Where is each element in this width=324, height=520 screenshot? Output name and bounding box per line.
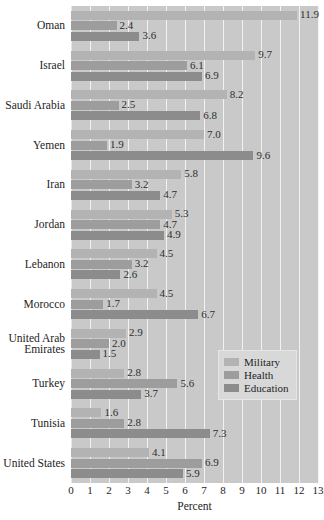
bar-value-label: 2.8 <box>127 367 141 378</box>
legend-swatch <box>224 371 239 379</box>
bar <box>71 379 177 388</box>
bar-value-label: 7.0 <box>207 129 221 140</box>
x-tick-label: 8 <box>220 484 226 496</box>
bar <box>71 300 103 309</box>
bar <box>71 180 132 189</box>
category-label: Tunisia <box>31 418 65 429</box>
bar-value-label: 3.7 <box>144 388 158 399</box>
bar-row: 9.6 <box>71 151 318 160</box>
x-tick-label: 1 <box>87 484 93 496</box>
bar-row: 1.6 <box>71 408 318 417</box>
category-label: Saudi Arabia <box>5 100 65 111</box>
bar-row: 5.8 <box>71 170 318 179</box>
bar-row: 7.3 <box>71 429 318 438</box>
category-axis-labels: OmanIsraelSaudi ArabiaYemenIranJordanLeb… <box>0 6 68 483</box>
category-label: Turkey <box>32 378 65 389</box>
bar-value-label: 2.9 <box>129 328 143 339</box>
bar <box>71 170 181 179</box>
bar <box>71 90 227 99</box>
bar-value-label: 5.9 <box>186 468 200 479</box>
bar <box>71 101 119 110</box>
bar <box>71 429 210 438</box>
bar-row: 4.7 <box>71 220 318 229</box>
bar-row: 3.6 <box>71 32 318 41</box>
bar <box>71 11 297 20</box>
category-label: Israel <box>39 60 65 71</box>
x-tick-label: 2 <box>106 484 112 496</box>
legend-label: Education <box>244 382 289 394</box>
bar-group: 5.34.74.9 <box>71 205 318 245</box>
bar-row: 2.8 <box>71 419 318 428</box>
x-axis-title: Percent <box>71 500 318 512</box>
bar-row: 11.9 <box>71 11 318 20</box>
bar-row: 7.0 <box>71 130 318 139</box>
legend: MilitaryHealthEducation <box>218 350 297 400</box>
x-axis-ticks: 012345678910111213 <box>71 483 318 501</box>
bar-value-label: 6.7 <box>201 309 215 320</box>
bar <box>71 151 253 160</box>
bar <box>71 141 107 150</box>
bar <box>71 72 202 81</box>
bar <box>71 419 124 428</box>
bar-value-label: 9.7 <box>258 49 272 60</box>
bar-row: 3.2 <box>71 180 318 189</box>
bar-row: 1.9 <box>71 141 318 150</box>
category-label: United States <box>3 458 65 469</box>
bar-row: 2.4 <box>71 21 318 30</box>
bar <box>71 369 124 378</box>
x-tick-label: 0 <box>68 484 74 496</box>
bar <box>71 469 183 478</box>
bar-value-label: 4.9 <box>167 229 181 240</box>
x-tick-label: 12 <box>294 484 305 496</box>
bar <box>71 32 139 41</box>
x-tick-label: 6 <box>182 484 188 496</box>
bar-value-label: 3.2 <box>135 179 149 190</box>
bar-group: 11.92.43.6 <box>71 6 318 46</box>
legend-label: Health <box>244 369 273 381</box>
legend-swatch <box>224 358 239 366</box>
bar-row: 4.5 <box>71 249 318 258</box>
bar-value-label: 2.6 <box>123 269 137 280</box>
x-tick-label: 4 <box>144 484 150 496</box>
bar-value-label: 6.8 <box>203 110 217 121</box>
category-label: Iran <box>46 179 65 190</box>
bar-value-label: 1.9 <box>110 139 124 150</box>
category-label: Oman <box>37 20 65 31</box>
bar-value-label: 1.6 <box>104 407 118 418</box>
bar <box>71 310 198 319</box>
bar <box>71 459 202 468</box>
bar-value-label: 5.6 <box>180 378 194 389</box>
bar-row: 5.3 <box>71 210 318 219</box>
bar-group: 1.62.87.3 <box>71 404 318 444</box>
bar-value-label: 6.9 <box>205 70 219 81</box>
bar-row: 8.2 <box>71 90 318 99</box>
bar <box>71 408 101 417</box>
bar-value-label: 1.7 <box>106 298 120 309</box>
category-label: Jordan <box>34 219 65 230</box>
bar-row: 2.5 <box>71 101 318 110</box>
legend-label: Military <box>244 356 280 368</box>
x-tick-label: 9 <box>239 484 245 496</box>
legend-item: Education <box>224 382 289 394</box>
legend-swatch <box>224 384 239 392</box>
bar-row: 4.9 <box>71 231 318 240</box>
bar-group: 4.53.22.6 <box>71 245 318 285</box>
bar-row: 6.9 <box>71 72 318 81</box>
bar-value-label: 2.5 <box>122 100 136 111</box>
bar-value-label: 11.9 <box>300 10 319 21</box>
bar-row: 6.1 <box>71 61 318 70</box>
bar-group: 8.22.56.8 <box>71 86 318 126</box>
bar-group: 5.83.24.7 <box>71 165 318 205</box>
bar-value-label: 4.5 <box>160 248 174 259</box>
category-label: United Arab Emirates <box>8 333 65 355</box>
bar <box>71 191 160 200</box>
bar-value-label: 6.9 <box>205 457 219 468</box>
bar <box>71 21 117 30</box>
bar-value-label: 2.4 <box>120 20 134 31</box>
bar-group: 9.76.16.9 <box>71 46 318 86</box>
legend-item: Health <box>224 369 289 381</box>
x-tick-label: 11 <box>275 484 286 496</box>
bar <box>71 210 172 219</box>
plot-area: 11.92.43.69.76.16.98.22.56.87.01.99.65.8… <box>71 6 318 483</box>
bar <box>71 220 160 229</box>
